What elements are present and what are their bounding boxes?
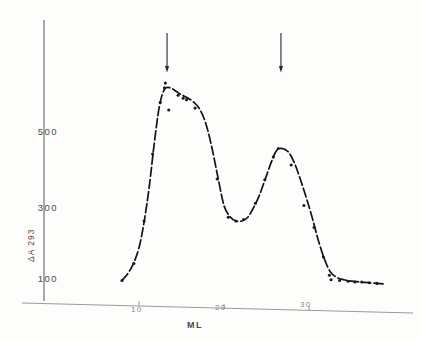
arrow-marker-1 — [165, 33, 169, 73]
data-point — [254, 202, 257, 205]
data-point — [194, 107, 197, 110]
data-point — [159, 101, 162, 104]
data-point — [375, 282, 378, 285]
x-tick-label-10: 10 — [131, 305, 142, 314]
data-point — [216, 177, 219, 180]
data-point — [263, 178, 266, 181]
chart-plot-area — [0, 0, 421, 341]
x-tick-label-20: 20 — [215, 303, 226, 312]
data-point — [330, 278, 333, 281]
data-point — [302, 204, 305, 207]
data-point — [120, 279, 123, 282]
x-axis-title: ML — [187, 320, 203, 330]
annotation-arrows — [165, 33, 283, 73]
data-point — [227, 216, 230, 219]
data-point — [167, 108, 170, 111]
elution-curve — [122, 87, 386, 284]
data-point — [290, 164, 293, 167]
arrow-head-icon — [165, 66, 169, 73]
data-point — [242, 218, 245, 221]
data-point — [185, 98, 188, 101]
data-point — [328, 274, 331, 277]
data-point — [182, 97, 185, 100]
data-point — [338, 279, 341, 282]
data-point — [132, 262, 135, 265]
data-point — [164, 82, 167, 85]
data-point — [313, 226, 316, 229]
y-tick-label-300: 300 — [22, 202, 58, 213]
x-tick-label-30: 30 — [300, 300, 311, 309]
arrow-head-icon — [279, 66, 283, 73]
data-point — [322, 255, 325, 258]
data-point — [143, 219, 146, 222]
y-tick-label-500: 500 — [22, 126, 58, 137]
data-point — [234, 219, 237, 222]
data-point — [360, 280, 363, 283]
data-point — [163, 86, 166, 89]
data-point — [177, 94, 180, 97]
data-point — [353, 280, 356, 283]
data-point — [272, 155, 275, 158]
data-point — [368, 281, 371, 284]
y-tick-label-100: 100 — [22, 273, 58, 284]
elution-profile-figure: 500 300 100 10 20 30 ΔA 293 ML — [0, 0, 421, 341]
data-point — [151, 153, 154, 156]
arrow-marker-2 — [279, 33, 283, 73]
data-point — [277, 147, 280, 150]
data-point — [347, 280, 350, 283]
y-axis-title: ΔA 293 — [26, 229, 36, 262]
